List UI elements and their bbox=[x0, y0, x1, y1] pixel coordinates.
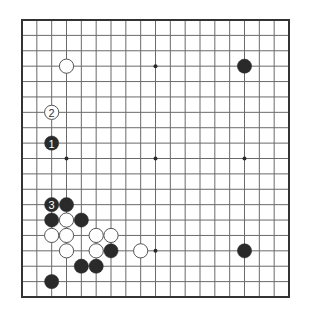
stone-circle bbox=[104, 228, 118, 242]
black-stone bbox=[104, 244, 118, 258]
move-number-label: 3 bbox=[49, 199, 55, 211]
stone-circle bbox=[59, 198, 73, 212]
move-number-label: 2 bbox=[49, 107, 55, 119]
black-stone bbox=[237, 244, 251, 258]
white-stone bbox=[59, 228, 73, 242]
white-stone bbox=[59, 213, 73, 227]
stone-circle bbox=[89, 244, 103, 258]
white-stone bbox=[59, 59, 73, 73]
black-stone bbox=[45, 274, 59, 288]
white-stone: 2 bbox=[45, 105, 59, 119]
black-stone bbox=[45, 213, 59, 227]
black-stone: 3 bbox=[45, 198, 59, 212]
move-number-label: 1 bbox=[49, 138, 55, 150]
stone-circle bbox=[74, 213, 88, 227]
stone-circle bbox=[59, 228, 73, 242]
white-stone bbox=[89, 228, 103, 242]
stone-circle bbox=[45, 274, 59, 288]
star-point bbox=[65, 157, 69, 161]
white-stone bbox=[104, 228, 118, 242]
stone-circle bbox=[59, 244, 73, 258]
black-stone bbox=[59, 198, 73, 212]
white-stone bbox=[59, 244, 73, 258]
stone-circle bbox=[89, 228, 103, 242]
black-stone bbox=[74, 259, 88, 273]
stone-circle bbox=[104, 244, 118, 258]
white-stone bbox=[45, 228, 59, 242]
stone-circle bbox=[59, 213, 73, 227]
stone-circle bbox=[89, 259, 103, 273]
stone-circle bbox=[45, 213, 59, 227]
stone-circle bbox=[45, 228, 59, 242]
stone-circle bbox=[237, 59, 251, 73]
black-stone bbox=[89, 259, 103, 273]
stone-circle bbox=[59, 59, 73, 73]
white-stone bbox=[134, 244, 148, 258]
black-stone: 1 bbox=[45, 136, 59, 150]
white-stone bbox=[89, 244, 103, 258]
star-point bbox=[154, 157, 158, 161]
black-stone bbox=[74, 213, 88, 227]
black-stone bbox=[237, 59, 251, 73]
stone-circle bbox=[74, 259, 88, 273]
star-point bbox=[154, 64, 158, 68]
stone-circle bbox=[237, 244, 251, 258]
star-point bbox=[154, 249, 158, 253]
stone-circle bbox=[134, 244, 148, 258]
star-point bbox=[243, 157, 247, 161]
go-board: 213 bbox=[0, 0, 309, 317]
